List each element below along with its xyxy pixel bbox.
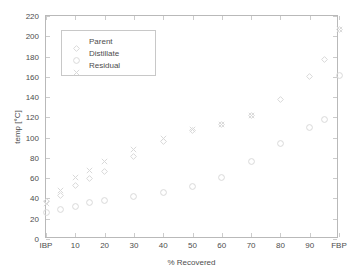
data-point-residual bbox=[189, 126, 196, 133]
data-point-residual bbox=[218, 121, 225, 128]
y-tick-label: 160 bbox=[26, 72, 39, 81]
circle-marker-icon bbox=[65, 47, 89, 59]
x-tick-label: 80 bbox=[276, 241, 285, 250]
x-tick-label: 70 bbox=[247, 241, 256, 250]
data-point-residual bbox=[57, 187, 64, 194]
data-point-distillate bbox=[306, 124, 313, 131]
data-point-distillate bbox=[189, 183, 196, 190]
y-tick-label: 200 bbox=[26, 32, 39, 41]
x-tick-label: IBP bbox=[40, 241, 53, 250]
y-tick-label: 140 bbox=[26, 93, 39, 102]
data-point-parent bbox=[101, 168, 108, 175]
y-tick-label: 60 bbox=[30, 174, 39, 183]
y-tick-label: 100 bbox=[26, 133, 39, 142]
x-tick-label: 30 bbox=[129, 241, 138, 250]
data-point-distillate bbox=[321, 116, 328, 123]
y-tick-mark bbox=[46, 239, 50, 240]
data-point-residual bbox=[160, 135, 167, 142]
data-point-parent bbox=[86, 175, 93, 182]
data-point-parent bbox=[57, 192, 64, 199]
data-point-parent bbox=[277, 96, 284, 103]
data-point-parent bbox=[72, 182, 79, 189]
data-point-parent bbox=[248, 112, 255, 119]
legend-item-distillate: Distillate bbox=[65, 47, 152, 59]
y-axis-title: temp [°C] bbox=[13, 110, 22, 143]
data-point-residual bbox=[86, 167, 93, 174]
x-tick-label: 90 bbox=[305, 241, 314, 250]
data-point-parent bbox=[160, 138, 167, 145]
y-tick-label: 220 bbox=[26, 12, 39, 21]
y-tick-label: 120 bbox=[26, 113, 39, 122]
y-tick-label: 180 bbox=[26, 52, 39, 61]
data-point-parent bbox=[336, 26, 343, 33]
y-tick-mark-right bbox=[333, 239, 337, 240]
data-point-distillate bbox=[160, 189, 167, 196]
data-point-distillate bbox=[336, 72, 343, 79]
data-point-residual bbox=[130, 146, 137, 153]
data-point-distillate bbox=[72, 203, 79, 210]
data-point-distillate bbox=[277, 140, 284, 147]
x-tick-mark-top bbox=[339, 16, 340, 20]
data-point-parent bbox=[306, 73, 313, 80]
data-point-parent bbox=[130, 153, 137, 160]
data-point-residual bbox=[43, 200, 50, 207]
data-point-distillate bbox=[57, 206, 64, 213]
legend-item-parent: Parent bbox=[65, 35, 152, 47]
data-point-distillate bbox=[248, 158, 255, 165]
y-tick-label: 80 bbox=[30, 153, 39, 162]
x-tick-mark bbox=[339, 233, 340, 237]
data-point-distillate bbox=[218, 174, 225, 181]
chart-legend: Parent Distillate Residual bbox=[61, 30, 156, 76]
x-tick-label: FBP bbox=[331, 241, 347, 250]
x-tick-label: 20 bbox=[100, 241, 109, 250]
x-marker-icon bbox=[65, 59, 89, 71]
data-point-residual bbox=[101, 158, 108, 165]
data-point-parent bbox=[43, 198, 50, 205]
scatter-chart-figure: temp [°C] % Recovered 020406080100120140… bbox=[0, 0, 358, 278]
x-tick-label: 60 bbox=[217, 241, 226, 250]
data-point-residual bbox=[336, 26, 343, 33]
data-point-residual bbox=[248, 112, 255, 119]
y-tick-label: 0 bbox=[35, 235, 39, 244]
x-tick-label: 50 bbox=[188, 241, 197, 250]
data-point-distillate bbox=[43, 209, 50, 216]
data-point-distillate bbox=[130, 193, 137, 200]
data-point-distillate bbox=[86, 199, 93, 206]
legend-item-label: Distillate bbox=[89, 49, 119, 58]
data-point-parent bbox=[189, 127, 196, 134]
data-point-distillate bbox=[101, 197, 108, 204]
legend-item-label: Residual bbox=[89, 61, 120, 70]
x-axis-title: % Recovered bbox=[45, 258, 338, 267]
x-tick-label: 40 bbox=[159, 241, 168, 250]
legend-item-label: Parent bbox=[89, 37, 113, 46]
y-tick-label: 40 bbox=[30, 194, 39, 203]
legend-item-residual: Residual bbox=[65, 59, 152, 71]
data-point-parent bbox=[218, 121, 225, 128]
data-point-parent bbox=[321, 56, 328, 63]
y-tick-label: 20 bbox=[30, 214, 39, 223]
x-tick-label: 10 bbox=[71, 241, 80, 250]
diamond-marker-icon bbox=[65, 35, 89, 47]
plot-area: 020406080100120140160180200220 IBP102030… bbox=[45, 15, 338, 238]
data-point-residual bbox=[72, 174, 79, 181]
